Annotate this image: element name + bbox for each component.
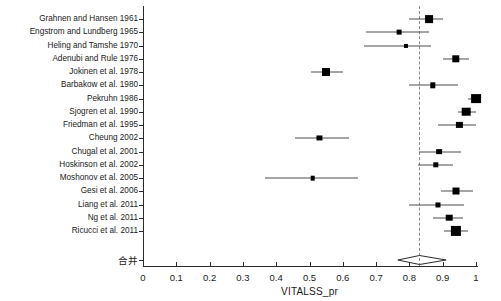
study-estimate-marker	[453, 188, 460, 195]
x-axis-tick-label: 0.9	[436, 272, 449, 283]
x-axis-tick	[276, 262, 277, 266]
y-axis-tick	[139, 125, 143, 126]
study-estimate-marker	[471, 94, 481, 104]
study-label: Jokinen et al. 1978	[69, 67, 138, 77]
x-axis-tick	[343, 262, 344, 266]
pooled-label: 合并	[118, 255, 138, 266]
y-axis-tick	[139, 205, 143, 206]
y-axis-tick	[139, 112, 143, 113]
study-estimate-marker	[404, 43, 408, 47]
x-axis-tick-label: 0.4	[270, 272, 283, 283]
x-axis-tick	[210, 262, 211, 266]
y-axis-tick	[139, 99, 143, 100]
x-axis-tick	[443, 262, 444, 266]
study-label: Cheung 2002	[89, 133, 138, 143]
x-axis-tick	[176, 262, 177, 266]
study-label: Hoskinson et al. 2002	[59, 160, 138, 170]
x-axis-tick	[409, 262, 410, 266]
x-axis-tick-label: 0.1	[170, 272, 183, 283]
study-estimate-marker	[397, 30, 402, 35]
study-estimate-marker	[446, 214, 453, 221]
study-estimate-marker	[433, 162, 438, 167]
y-axis-tick	[139, 178, 143, 179]
study-label: Barbakow et al. 1980	[61, 80, 138, 90]
study-label: Pekruhn 1986	[87, 94, 138, 104]
study-label: Adenubi and Rule 1976	[52, 54, 138, 64]
x-axis-tick-label: 0.6	[336, 272, 349, 283]
x-axis-tick	[476, 262, 477, 266]
study-estimate-marker	[311, 176, 316, 181]
study-estimate-marker	[430, 83, 435, 88]
study-estimate-marker	[462, 107, 471, 116]
study-label: Liang et al. 2011	[78, 200, 138, 210]
y-axis-tick	[139, 165, 143, 166]
study-estimate-marker	[451, 226, 461, 236]
study-label: Grahnen and Hansen 1961	[39, 14, 138, 24]
y-axis-tick	[139, 138, 143, 139]
study-label: Heling and Tamshe 1970	[48, 41, 138, 51]
x-axis-tick-label: 1	[473, 272, 478, 283]
x-axis-line	[143, 266, 478, 267]
y-axis-tick	[139, 218, 143, 219]
study-label: Moshonov et al. 2005	[60, 173, 138, 183]
x-axis-tick-label: 0.5	[303, 272, 316, 283]
study-estimate-marker	[452, 55, 459, 62]
x-axis-tick-label: 0.3	[236, 272, 249, 283]
y-axis-tick	[139, 59, 143, 60]
study-estimate-marker	[317, 136, 322, 141]
forest-plot: Grahnen and Hansen 1961Engstrom and Lund…	[0, 0, 501, 301]
x-axis-tick-label: 0.7	[369, 272, 382, 283]
pooled-estimate-diamond	[397, 255, 447, 266]
study-estimate-marker	[322, 68, 330, 76]
y-axis-tick	[139, 231, 143, 232]
y-axis-tick	[139, 32, 143, 33]
study-label: Ricucci et al. 2011	[72, 226, 138, 236]
x-axis-tick	[310, 262, 311, 266]
study-label: Gesi et al. 2006	[81, 186, 138, 196]
x-axis-tick-label: 0	[140, 272, 145, 283]
study-label: Ng et al. 2011	[88, 213, 138, 223]
y-axis-tick	[139, 191, 143, 192]
y-axis-tick	[139, 85, 143, 86]
study-estimate-marker	[437, 149, 443, 155]
y-axis-line	[143, 6, 144, 266]
x-axis-tick-label: 0.2	[203, 272, 216, 283]
study-label: Friedman et al. 1995	[63, 120, 138, 130]
study-estimate-marker	[435, 202, 440, 207]
study-label: Engstrom and Lundberg 1965	[30, 27, 138, 37]
confidence-interval-line	[364, 45, 431, 46]
x-axis-tick	[376, 262, 377, 266]
study-estimate-marker	[425, 15, 433, 23]
x-axis-tick	[243, 262, 244, 266]
y-axis-tick	[139, 19, 143, 20]
y-axis-tick	[139, 152, 143, 153]
study-label: Chugal et al. 2001	[72, 147, 138, 157]
x-axis-tick-label: 0.8	[403, 272, 416, 283]
x-axis-title: VITALSS_pr	[281, 286, 338, 297]
y-axis-tick	[139, 46, 143, 47]
x-axis-tick	[143, 262, 144, 266]
study-estimate-marker	[456, 122, 462, 128]
y-axis-tick	[139, 72, 143, 73]
study-label: Sjogren et al. 1990	[69, 107, 138, 117]
